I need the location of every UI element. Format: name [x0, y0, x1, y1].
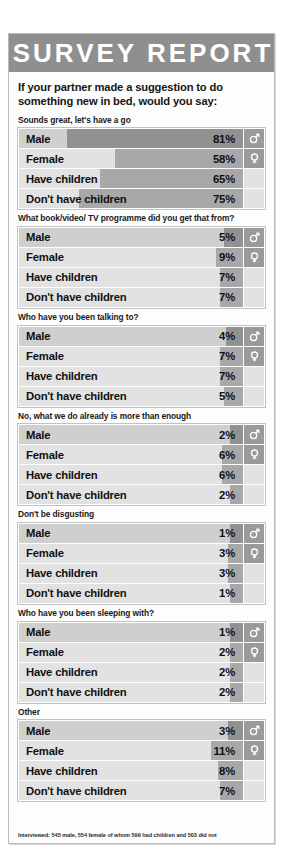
- row-label: Male: [26, 721, 50, 740]
- row-value: 5%: [219, 228, 235, 247]
- row-value: 1%: [219, 623, 235, 642]
- answer-block: Who have you been sleeping with?Male1%Fe…: [17, 608, 266, 704]
- bar-track: Don't have children7%: [19, 288, 243, 307]
- table-row: Male2%: [19, 425, 264, 444]
- female-symbol-icon: [244, 248, 264, 267]
- answer-block-title: Other: [17, 707, 266, 720]
- row-label: Male: [26, 623, 50, 642]
- bar-track: Female2%: [19, 643, 243, 662]
- female-symbol-icon: [244, 643, 264, 662]
- answer-rows: Male81%Female58%Have children65%Don't ha…: [17, 127, 266, 210]
- row-value: 4%: [219, 327, 235, 346]
- bar-track: Male1%: [19, 623, 243, 642]
- answer-block: OtherMale3%Female11%Have children8%Don't…: [17, 707, 266, 803]
- answer-rows: Male2%Female6%Have children6%Don't have …: [17, 423, 266, 506]
- table-row: Have children3%: [19, 564, 264, 583]
- row-value: 11%: [214, 741, 235, 760]
- table-row: Have children7%: [19, 367, 264, 386]
- icon-cell-empty: [244, 761, 264, 780]
- table-row: Male1%: [19, 524, 264, 543]
- answer-block: What book/video/ TV programme did you ge…: [17, 213, 266, 309]
- row-label: Have children: [26, 761, 98, 780]
- table-row: Male4%: [19, 327, 264, 346]
- bar-track: Don't have children75%: [19, 189, 243, 208]
- bar-track: Don't have children2%: [19, 683, 243, 702]
- row-label: Don't have children: [26, 288, 127, 307]
- table-row: Male1%: [19, 623, 264, 642]
- survey-report-page: SURVEY REPORT If your partner made a sug…: [0, 0, 285, 852]
- bar-track: Female6%: [19, 445, 243, 464]
- table-row: Male5%: [19, 228, 264, 247]
- row-value: 2%: [219, 683, 235, 702]
- bar-track: Have children6%: [19, 465, 243, 484]
- bar-track: Have children3%: [19, 564, 243, 583]
- row-value: 7%: [219, 288, 235, 307]
- row-value: 3%: [219, 544, 235, 563]
- table-row: Male3%: [19, 721, 264, 740]
- icon-cell-empty: [244, 288, 264, 307]
- methodology-credit: Interviewed: 545 male, 554 female of who…: [9, 829, 274, 843]
- male-symbol-icon: [244, 721, 264, 740]
- row-label: Don't have children: [26, 189, 127, 208]
- answer-rows: Male1%Female3%Have children3%Don't have …: [17, 522, 266, 605]
- icon-cell-empty: [244, 465, 264, 484]
- answer-block-title: What book/video/ TV programme did you ge…: [17, 213, 266, 226]
- answer-block: Don't be disgustingMale1%Female3%Have ch…: [17, 509, 266, 605]
- bar-track: Have children65%: [19, 169, 243, 188]
- row-value: 58%: [213, 149, 235, 168]
- row-value: 5%: [219, 387, 235, 406]
- male-symbol-icon: [244, 129, 264, 148]
- table-row: Female9%: [19, 248, 264, 267]
- answer-rows: Male3%Female11%Have children8%Don't have…: [17, 719, 266, 802]
- row-label: Male: [26, 524, 50, 543]
- table-row: Don't have children7%: [19, 288, 264, 307]
- row-label: Female: [26, 445, 64, 464]
- row-label: Female: [26, 544, 64, 563]
- row-value: 8%: [219, 761, 235, 780]
- row-value: 65%: [213, 169, 235, 188]
- table-row: Female7%: [19, 347, 264, 366]
- row-label: Male: [26, 228, 50, 247]
- row-value: 1%: [219, 524, 235, 543]
- row-label: Have children: [26, 564, 98, 583]
- row-value: 2%: [219, 485, 235, 504]
- bar-track: Male3%: [19, 721, 243, 740]
- row-label: Don't have children: [26, 584, 127, 603]
- row-value: 3%: [219, 721, 235, 740]
- table-row: Male81%: [19, 129, 264, 148]
- answer-block-title: Don't be disgusting: [17, 509, 266, 522]
- page-title: SURVEY REPORT: [10, 40, 274, 66]
- table-row: Don't have children2%: [19, 485, 264, 504]
- row-label: Have children: [26, 663, 98, 682]
- bar-track: Have children7%: [19, 367, 243, 386]
- female-symbol-icon: [244, 347, 264, 366]
- female-symbol-icon: [244, 544, 264, 563]
- icon-cell-empty: [244, 387, 264, 406]
- row-value: 3%: [219, 564, 235, 583]
- answer-block-title: No, what we do already is more than enou…: [17, 411, 266, 424]
- row-value: 1%: [219, 584, 235, 603]
- row-value: 2%: [219, 643, 235, 662]
- answer-block-title: Who have you been talking to?: [17, 312, 266, 325]
- answer-block: Sounds great, let's have a goMale81%Fema…: [17, 115, 266, 211]
- icon-cell-empty: [244, 663, 264, 682]
- row-value: 6%: [219, 465, 235, 484]
- icon-cell-empty: [244, 485, 264, 504]
- bar-track: Don't have children2%: [19, 485, 243, 504]
- table-row: Female2%: [19, 643, 264, 662]
- icon-cell-empty: [244, 781, 264, 800]
- male-symbol-icon: [244, 327, 264, 346]
- table-row: Female11%: [19, 741, 264, 760]
- answer-rows: Male1%Female2%Have children2%Don't have …: [17, 621, 266, 704]
- row-label: Female: [26, 149, 64, 168]
- table-row: Female6%: [19, 445, 264, 464]
- table-row: Have children65%: [19, 169, 264, 188]
- bar-track: Don't have children5%: [19, 387, 243, 406]
- bar-track: Female9%: [19, 248, 243, 267]
- report-sheet: SURVEY REPORT If your partner made a sug…: [8, 33, 275, 844]
- row-label: Male: [26, 129, 50, 148]
- male-symbol-icon: [244, 425, 264, 444]
- table-row: Don't have children7%: [19, 781, 264, 800]
- row-label: Have children: [26, 465, 98, 484]
- row-value: 2%: [219, 425, 235, 444]
